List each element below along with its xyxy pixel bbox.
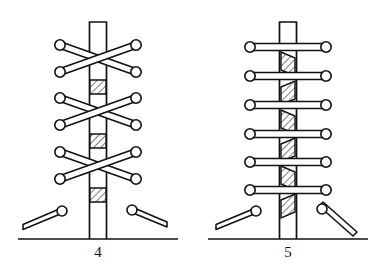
figure-4-group: [18, 22, 178, 239]
figure-4-loose-end-left: [23, 206, 67, 230]
figure-4-loose-end-right: [127, 205, 167, 227]
figure-4-caption: 4: [78, 244, 118, 261]
lacing-diagrams-svg: [0, 0, 376, 279]
figure-5-loose-end-right: [317, 202, 357, 236]
figure-4-laces: [60, 42, 136, 183]
figure-4-hatch-bands: [90, 80, 106, 202]
figure-5-caption: 5: [268, 244, 308, 261]
figure-5-loose-end-left: [216, 206, 261, 230]
figure-5-group: [208, 22, 368, 239]
illustration-canvas: 4 5: [0, 0, 376, 279]
